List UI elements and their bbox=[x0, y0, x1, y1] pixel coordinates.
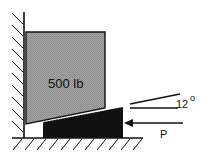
angle-value-label: 12 bbox=[176, 98, 188, 110]
wedge-diagram: 500 lb P 12 o bbox=[0, 0, 207, 162]
angle-indicator bbox=[130, 94, 180, 108]
block-weight-label: 500 lb bbox=[48, 76, 83, 91]
force-label: P bbox=[160, 128, 167, 140]
wall bbox=[12, 12, 24, 138]
force-arrow bbox=[124, 119, 183, 127]
ground bbox=[12, 138, 143, 150]
degree-symbol: o bbox=[190, 93, 195, 103]
